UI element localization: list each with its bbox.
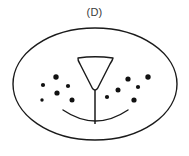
list-item [53,74,58,79]
funnel-shape [78,57,113,90]
list-item [54,90,59,95]
list-item [66,84,70,88]
list-item [41,83,45,87]
left-dot-cluster [40,74,74,102]
figure-panel: (D) [0,0,189,156]
list-item [125,76,130,81]
list-item [70,98,75,103]
list-item [40,98,43,101]
list-item [105,95,109,99]
list-item [136,85,140,89]
schematic-diagram [0,0,189,156]
right-dot-cluster [105,74,151,102]
list-item [145,74,150,79]
list-item [116,88,121,93]
list-item [131,97,136,102]
